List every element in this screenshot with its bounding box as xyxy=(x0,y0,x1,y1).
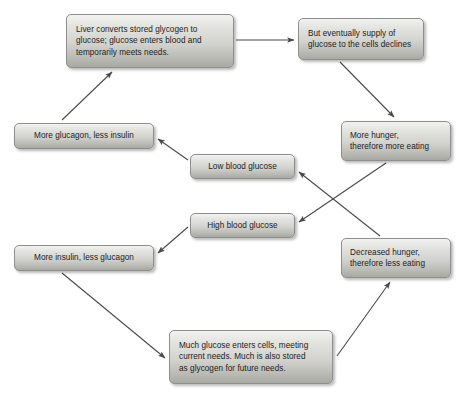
arrow-more-hunger-to-high-glucose xyxy=(299,163,386,222)
node-label: Liver converts stored glycogen to glucos… xyxy=(67,24,233,58)
node-label: More hunger, therefore more eating xyxy=(342,130,450,152)
node-label: Much glucose enters cells, meeting curre… xyxy=(170,340,332,374)
node-high-blood-glucose[interactable]: High blood glucose xyxy=(190,213,295,238)
node-label: More glucagon, less insulin xyxy=(15,130,153,141)
node-label: But eventually supply of glucose to the … xyxy=(299,28,423,50)
node-decreased-hunger[interactable]: Decreased hunger, therefore less eating xyxy=(341,238,451,278)
node-label: High blood glucose xyxy=(191,220,294,231)
arrow-high-glucose-to-more-insulin xyxy=(158,227,188,253)
node-label: More insulin, less glucagon xyxy=(15,252,153,263)
node-low-blood-glucose[interactable]: Low blood glucose xyxy=(190,154,295,179)
arrow-much-glucose-to-decreased-hunger xyxy=(337,282,390,356)
node-label: Low blood glucose xyxy=(191,161,294,172)
node-liver-converts[interactable]: Liver converts stored glycogen to glucos… xyxy=(66,14,234,68)
node-supply-declines[interactable]: But eventually supply of glucose to the … xyxy=(298,18,424,60)
arrow-more-glucagon-to-liver xyxy=(62,72,112,120)
arrow-supply-to-more-hunger xyxy=(340,62,394,117)
arrow-more-insulin-to-much-glucose xyxy=(62,273,165,358)
node-more-glucagon[interactable]: More glucagon, less insulin xyxy=(14,123,154,149)
arrow-low-glucose-to-more-glucagon xyxy=(158,139,188,160)
node-more-hunger[interactable]: More hunger, therefore more eating xyxy=(341,121,451,161)
diagram-canvas: Liver converts stored glycogen to glucos… xyxy=(0,0,471,400)
node-more-insulin[interactable]: More insulin, less glucagon xyxy=(14,245,154,271)
node-label: Decreased hunger, therefore less eating xyxy=(342,247,450,269)
node-much-glucose[interactable]: Much glucose enters cells, meeting curre… xyxy=(169,330,333,384)
arrow-decreased-hunger-to-low-glucose xyxy=(299,172,380,236)
